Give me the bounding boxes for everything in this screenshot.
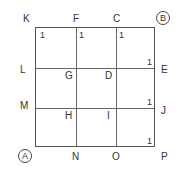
edge-weight: 1 bbox=[40, 31, 45, 40]
point-label-m: M bbox=[20, 101, 28, 111]
point-label-o: O bbox=[112, 152, 120, 162]
point-label-i: I bbox=[107, 111, 110, 121]
point-label-e: E bbox=[161, 65, 168, 75]
point-label-j: J bbox=[161, 106, 166, 116]
grid-line-horizontal bbox=[36, 68, 154, 69]
edge-weight: 1 bbox=[79, 31, 84, 40]
street-grid bbox=[35, 27, 155, 147]
point-label-g: G bbox=[65, 71, 73, 81]
point-label-n: N bbox=[72, 152, 79, 162]
point-label-a-circled: A bbox=[18, 149, 32, 163]
grid-line-vertical bbox=[76, 28, 77, 146]
point-label-h: H bbox=[65, 111, 72, 121]
point-label-p: P bbox=[161, 152, 168, 162]
point-label-f: F bbox=[73, 14, 79, 24]
edge-weight: 1 bbox=[147, 98, 152, 107]
point-label-c: C bbox=[113, 14, 120, 24]
point-label-k: K bbox=[23, 14, 30, 24]
edge-weight: 1 bbox=[147, 58, 152, 67]
grid-line-horizontal bbox=[36, 108, 154, 109]
edge-weight: 1 bbox=[119, 31, 124, 40]
point-label-l: L bbox=[20, 65, 26, 75]
grid-line-vertical bbox=[116, 28, 117, 146]
point-label-d: D bbox=[105, 71, 112, 81]
edge-weight: 1 bbox=[147, 137, 152, 146]
point-label-b-circled: B bbox=[156, 11, 170, 25]
